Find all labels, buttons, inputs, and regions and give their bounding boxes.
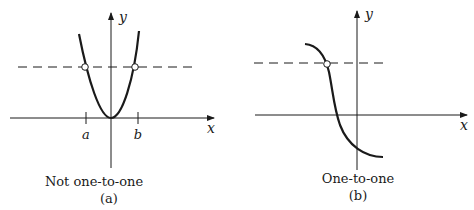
figure-canvas: a b x y Not one-to-one (a) x y One-to-on… — [0, 0, 474, 210]
parabola-curve — [79, 31, 139, 118]
x-axis-label: x — [207, 120, 215, 136]
caption-a: Not one-to-one — [45, 174, 143, 189]
y-axis-label: y — [364, 6, 374, 22]
one-to-one-curve — [305, 44, 383, 157]
tick-label-a: a — [82, 127, 90, 142]
panel-a: a b x y Not one-to-one (a) — [10, 9, 215, 206]
caption-b: One-to-one — [322, 171, 395, 186]
intersection-point-left — [82, 64, 89, 71]
panel-label-b: (b) — [349, 188, 367, 203]
intersection-point-right — [132, 64, 139, 71]
x-axis-label: x — [460, 117, 468, 133]
tick-label-b: b — [134, 127, 142, 142]
panel-label-a: (a) — [100, 191, 118, 206]
intersection-point — [324, 61, 331, 68]
panel-b: x y One-to-one (b) — [254, 6, 468, 203]
y-axis-label: y — [118, 9, 128, 25]
